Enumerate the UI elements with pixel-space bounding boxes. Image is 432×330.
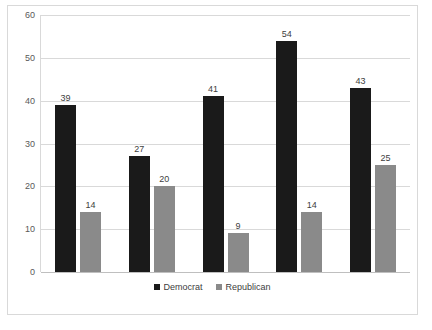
bar-republican-group-2[interactable]: 20 (154, 186, 175, 272)
y-axis-tick-label-40: 40 (25, 96, 35, 106)
y-axis-tick-label-20: 20 (25, 181, 35, 191)
bar-democrat-group-5[interactable]: 43 (350, 88, 371, 272)
bar-value-label: 25 (381, 154, 391, 163)
bar-republican-group-1[interactable]: 14 (80, 212, 101, 272)
chart-legend: Democrat Republican (8, 282, 417, 292)
bar-value-label: 43 (356, 77, 366, 86)
bar-value-label: 20 (159, 175, 169, 184)
bar-republican-group-3[interactable]: 9 (228, 233, 249, 272)
bar-value-label: 54 (282, 30, 292, 39)
y-axis-tick-label-10: 10 (25, 224, 35, 234)
gridline-50: 50 (41, 58, 410, 59)
legend-swatch-icon-democrat (154, 284, 160, 290)
chart-frame: 01020304050603914272041954144325 Democra… (7, 5, 418, 315)
plot-area: 01020304050603914272041954144325 (40, 15, 410, 272)
bar-republican-group-4[interactable]: 14 (301, 212, 322, 272)
bar-democrat-group-3[interactable]: 41 (203, 96, 224, 272)
legend-label-democrat: Democrat (163, 282, 202, 292)
bar-value-label: 39 (60, 94, 70, 103)
bar-democrat-group-1[interactable]: 39 (55, 105, 76, 272)
bar-republican-group-5[interactable]: 25 (375, 165, 396, 272)
gridline-0: 0 (41, 272, 410, 273)
y-axis-tick-label-30: 30 (25, 139, 35, 149)
bar-value-label: 14 (307, 201, 317, 210)
bar-value-label: 14 (85, 201, 95, 210)
y-axis-tick-label-60: 60 (25, 10, 35, 20)
legend-swatch-icon-republican (216, 284, 222, 290)
bar-value-label: 41 (208, 85, 218, 94)
legend-item-democrat[interactable]: Democrat (154, 282, 202, 292)
y-axis-tick-label-50: 50 (25, 53, 35, 63)
y-axis-tick-label-0: 0 (30, 267, 35, 277)
legend-item-republican[interactable]: Republican (216, 282, 270, 292)
bar-value-label: 9 (235, 222, 240, 231)
legend-label-republican: Republican (225, 282, 270, 292)
bar-democrat-group-2[interactable]: 27 (129, 156, 150, 272)
gridline-60: 60 (41, 15, 410, 16)
bar-democrat-group-4[interactable]: 54 (276, 41, 297, 272)
bar-value-label: 27 (134, 145, 144, 154)
